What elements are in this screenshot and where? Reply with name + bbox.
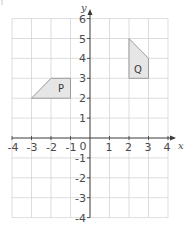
x-tick-label: 3	[145, 141, 152, 154]
x-tick-label: -4	[8, 141, 19, 154]
y-tick-label: -3	[75, 192, 86, 205]
y-tick-label: -1	[75, 152, 86, 165]
x-tick-label: 4	[164, 141, 171, 154]
y-tick-label: 6	[79, 13, 86, 26]
y-tick-labels: 6 5 4 3 2 1 -1 -2 -3 -4	[75, 13, 86, 225]
x-tick-labels: -4 -3 -2 -1 1 2 3 4	[8, 141, 171, 154]
y-tick-label: -4	[75, 212, 86, 225]
x-tick-label: -3	[27, 141, 38, 154]
x-tick-label: 2	[125, 141, 132, 154]
y-tick-label: 2	[79, 92, 86, 105]
y-tick-label: -2	[75, 172, 86, 185]
x-tick-label: -2	[46, 141, 57, 154]
y-tick-label: 5	[79, 33, 86, 46]
x-axis-label: x	[178, 140, 184, 151]
y-tick-label: 4	[79, 52, 86, 65]
shape-p	[32, 78, 71, 98]
shape-q-label: Q	[134, 64, 142, 75]
y-tick-label: 3	[79, 72, 86, 85]
x-tick-label: 1	[106, 141, 113, 154]
coordinate-grid: P Q x y -4 -3 -2 -1 1 2 3	[0, 0, 185, 231]
shape-p-label: P	[58, 83, 64, 94]
y-axis-arrow-icon	[88, 9, 93, 15]
y-axis-label: y	[80, 2, 87, 13]
y-tick-label: 1	[79, 112, 86, 125]
x-axis-arrow-icon	[170, 136, 176, 141]
